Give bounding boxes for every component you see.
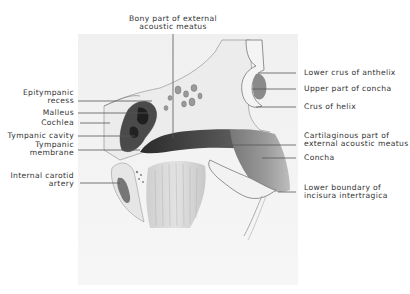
label-bony-part-external-acoustic-meatus: Bony part of external acoustic meatus [113,15,233,32]
label-line: incisura intertragica [304,192,388,200]
label-cochlea: Cochlea [0,119,74,127]
label-line: Crus of helix [304,103,356,111]
label-crus-of-helix: Crus of helix [304,103,356,111]
label-tympanic-membrane: Tympanic membrane [0,141,74,158]
label-line: artery [0,180,74,188]
label-line: Upper part of concha [304,85,391,93]
label-lower-crus-of-anthelix: Lower crus of anthelix [304,69,396,77]
label-line: acoustic meatus [113,23,233,31]
label-line: Cochlea [0,119,74,127]
label-cartilaginous-part-external-acoustic-meatus: Cartilaginous part of external acoustic … [304,132,408,149]
label-line: external acoustic meatus [304,140,408,148]
label-line: membrane [0,149,74,157]
label-line: Concha [304,154,335,162]
label-epitympanic-recess: Epitympanic recess [0,89,74,106]
label-upper-part-of-concha: Upper part of concha [304,85,391,93]
label-concha: Concha [304,154,335,162]
label-malleus: Malleus [0,109,74,117]
label-internal-carotid-artery: Internal carotid artery [0,172,74,189]
label-line: Lower crus of anthelix [304,69,396,77]
label-lower-boundary-incisura-intertragica: Lower boundary of incisura intertragica [304,184,388,201]
label-line: Malleus [0,109,74,117]
label-line: recess [0,97,74,105]
